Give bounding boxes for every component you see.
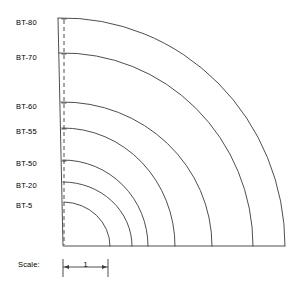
arc-bt-50 <box>63 160 148 246</box>
arc-bt-5 <box>64 202 110 246</box>
arc-bt-55 <box>62 128 175 246</box>
arc-label-bt-55: BT-55 <box>16 127 37 136</box>
scale-caption: Scale: <box>18 260 40 269</box>
arc-label-bt-20: BT-20 <box>16 181 37 190</box>
arc-bt-60 <box>61 102 212 246</box>
arc-profile-diagram <box>0 0 305 288</box>
left-edge-line <box>58 18 63 246</box>
diagram-page: BT-80BT-70BT-60BT-55BT-50BT-20BT-5 Scale… <box>0 0 305 288</box>
arc-label-bt-60: BT-60 <box>16 102 37 111</box>
arc-label-bt-80: BT-80 <box>16 18 37 27</box>
arc-bt-70 <box>59 53 253 246</box>
scale-arrow-left <box>64 265 69 269</box>
arc-bt-20 <box>63 182 132 246</box>
scale-value-label: 1 <box>71 260 101 269</box>
arc-label-bt-5: BT-5 <box>16 201 32 210</box>
arc-label-bt-70: BT-70 <box>16 53 37 62</box>
arc-label-bt-50: BT-50 <box>16 159 37 168</box>
scale-arrow-right <box>102 265 107 269</box>
